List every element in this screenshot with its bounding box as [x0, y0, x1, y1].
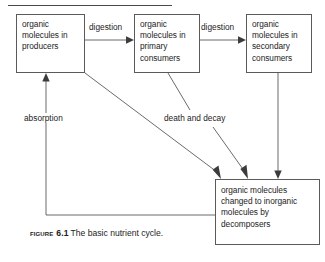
- figure-caption: Figure6.1The basic nutrient cycle.: [30, 228, 163, 239]
- node-organic-molecules-in-primary-consumers: organic molecules in primary consumers: [134, 14, 200, 73]
- edge-label-death-and-decay: death and decay: [163, 113, 226, 123]
- figure-caption-label: Figure: [30, 228, 53, 238]
- edge-absorption: [42, 73, 215, 215]
- edge-primary-to-decomposers: [168, 73, 248, 179]
- edge-label-digestion-1: digestion: [88, 22, 123, 32]
- edge-label-digestion-2: digestion: [200, 22, 235, 32]
- figure-caption-text: The basic nutrient cycle.: [71, 228, 164, 238]
- edge-label-absorption: absorption: [23, 113, 64, 123]
- node-organic-molecules-in-producers: organic molecules in producers: [16, 14, 85, 73]
- edge-digestion-2: [200, 36, 246, 43]
- edge-producers-to-decomposers: [85, 73, 221, 179]
- edge-secondary-to-decomposers: [274, 73, 281, 179]
- node-organic-molecules-in-secondary-consumers: organic molecules in secondary consumers: [246, 14, 312, 73]
- edge-digestion-1: [85, 36, 134, 43]
- node-organic-molecules-changed-by-decomposers: organic molecules changed to inorganic m…: [215, 179, 320, 245]
- figure-caption-number: 6.1: [56, 228, 68, 238]
- nutrient-cycle-figure: organic molecules in producers organic m…: [0, 0, 325, 262]
